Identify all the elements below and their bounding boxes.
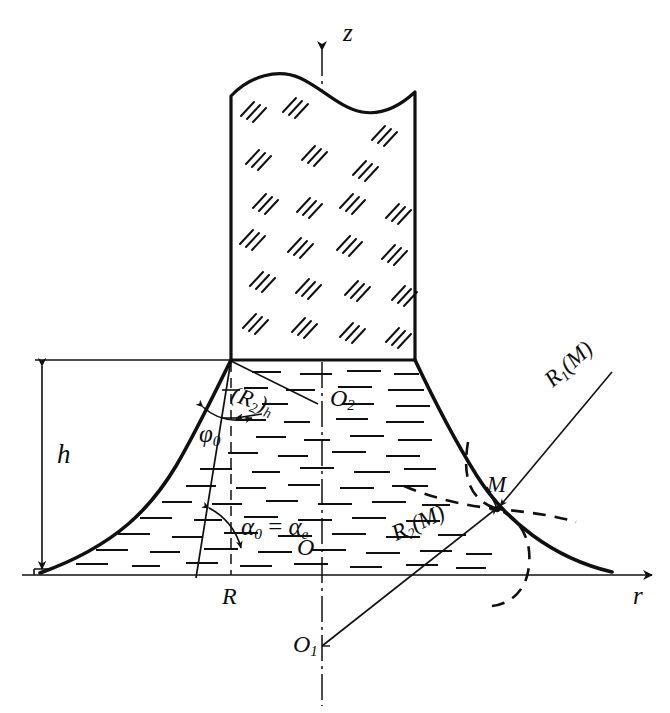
height-dimension: [34, 366, 51, 575]
alpha-equation-label: α0 = αe: [241, 514, 309, 542]
z-axis-label: z: [343, 20, 353, 45]
R1-radius-line: [322, 372, 612, 646]
meniscus-profile-right: [415, 360, 612, 572]
point-M-label: M: [487, 473, 506, 496]
r-axis-label: r: [633, 583, 643, 608]
phi-zero-label: φ0: [199, 421, 221, 449]
radius-R-label: R: [222, 584, 237, 608]
figure-canvas: z r O h R O1 O2 M φ0 α0 = αe (R2)h R1(M)…: [0, 0, 670, 713]
center-O1-label: O1: [293, 632, 318, 659]
alpha-angle-arc: [209, 508, 241, 548]
center-O2-label: O2: [330, 386, 355, 413]
height-label: h: [57, 441, 71, 468]
